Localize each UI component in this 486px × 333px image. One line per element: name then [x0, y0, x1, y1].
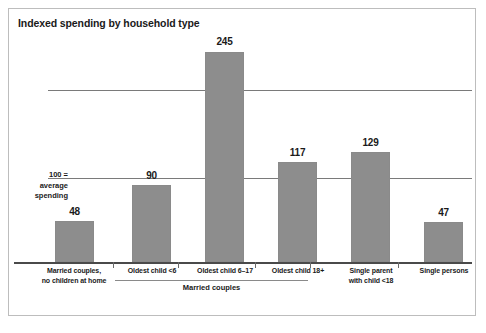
y-axis-reference-note: 100 = average spending — [10, 170, 68, 202]
category-label-oldest-child-under-6: Oldest child <6 — [112, 266, 192, 276]
category-label-single-parent: Single parent with child <18 — [331, 266, 411, 286]
category-label-oldest-child-18-plus: Oldest child 18+ — [258, 266, 338, 276]
bar-value-label: 47 — [424, 207, 463, 218]
category-label-line-2: with child <18 — [331, 276, 411, 286]
y-axis-note-line-3: spending — [10, 191, 68, 202]
bar-single-parent-with-child[interactable] — [351, 152, 390, 262]
group-bracket-line — [115, 280, 308, 281]
category-label-married-couples-no-children: Married couples, no children at home — [24, 266, 124, 286]
category-label-line-1: Oldest child 6–17 — [185, 266, 265, 276]
gridline-100 — [48, 178, 472, 179]
category-label-oldest-child-6-17: Oldest child 6–17 — [185, 266, 265, 276]
category-label-line-1: Oldest child 18+ — [258, 266, 338, 276]
bar-oldest-child-6-17[interactable] — [205, 52, 244, 262]
chart-figure: Indexed spending by household type 100 =… — [0, 0, 486, 333]
bar-value-label: 48 — [55, 206, 94, 217]
bar-value-label: 129 — [351, 137, 390, 148]
bar-value-label: 117 — [278, 147, 317, 158]
category-label-line-1: Oldest child <6 — [112, 266, 192, 276]
bar-value-label: 245 — [205, 36, 244, 47]
bar-oldest-child-18-plus[interactable] — [278, 162, 317, 262]
bar-oldest-child-under-6[interactable] — [132, 185, 171, 262]
x-axis-baseline — [14, 262, 472, 264]
category-label-line-1: Married couples, — [24, 266, 124, 276]
plot-area: 100 = average spending 48 90 245 117 129… — [0, 0, 486, 333]
category-label-line-1: Single parent — [331, 266, 411, 276]
bar-value-label: 90 — [132, 170, 171, 181]
bar-married-couples-no-children[interactable] — [55, 221, 94, 262]
category-label-single-persons: Single persons — [404, 266, 484, 276]
gridline-200 — [48, 90, 472, 91]
y-axis-note-line-1: 100 = — [10, 170, 68, 181]
y-axis-note-line-2: average — [10, 181, 68, 192]
category-label-line-2: no children at home — [24, 276, 124, 286]
bar-single-persons[interactable] — [424, 222, 463, 262]
group-bracket-label: Married couples — [115, 283, 308, 292]
category-label-line-1: Single persons — [404, 266, 484, 276]
